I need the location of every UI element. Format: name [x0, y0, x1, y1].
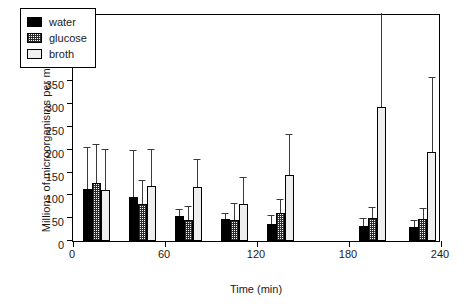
- legend-swatch-glucose-icon: [27, 33, 42, 43]
- x-axis-tick-label: 240: [431, 248, 449, 260]
- x-axis-title: Time (min): [72, 283, 440, 295]
- bar-glucose: [276, 213, 285, 241]
- error-bar-cap-broth: [102, 149, 109, 150]
- bar-chart-figure: Millions of microorganisms per millilite…: [0, 0, 463, 308]
- y-axis-tick: [67, 172, 73, 173]
- error-bar-water: [133, 151, 134, 197]
- x-axis-tick: [73, 241, 74, 247]
- error-bar-glucose: [372, 208, 373, 218]
- legend-item-broth: broth: [27, 46, 87, 62]
- bar-water: [83, 189, 92, 241]
- bar-water: [221, 219, 230, 241]
- error-bar-cap-broth: [194, 159, 201, 160]
- bar-broth: [285, 175, 294, 241]
- error-bar-cap-broth: [286, 134, 293, 135]
- error-bar-cap-glucose: [277, 199, 284, 200]
- error-bar-broth: [151, 150, 152, 186]
- bar-water: [359, 226, 368, 241]
- legend-swatch-broth-icon: [27, 49, 42, 59]
- error-bar-broth: [105, 150, 106, 190]
- error-bar-cap-glucose: [369, 207, 376, 208]
- legend-item-glucose: glucose: [27, 30, 87, 46]
- bar-broth: [147, 186, 156, 241]
- error-bar-broth: [197, 160, 198, 187]
- bar-broth: [101, 190, 110, 241]
- error-bar-glucose: [142, 181, 143, 204]
- bar-broth: [193, 187, 202, 241]
- error-bar-cap-broth: [148, 149, 155, 150]
- legend-swatch-water-icon: [27, 17, 42, 27]
- error-bar-glucose: [96, 145, 97, 182]
- error-bar-cap-water: [360, 218, 367, 219]
- error-bar-water: [179, 210, 180, 216]
- legend-label: broth: [49, 48, 74, 60]
- bar-water: [267, 224, 276, 241]
- error-bar-cap-glucose: [231, 203, 238, 204]
- y-axis-tick: [67, 194, 73, 195]
- bar-glucose: [418, 219, 427, 241]
- legend-item-water: water: [27, 14, 87, 30]
- y-axis-tick-label: 0: [58, 245, 64, 246]
- error-bar-broth: [289, 135, 290, 175]
- error-bar-glucose: [234, 204, 235, 220]
- bar-glucose: [184, 220, 193, 241]
- bar-water: [129, 197, 138, 241]
- y-axis-tick-label: 150: [46, 177, 64, 178]
- y-axis-tick: [67, 103, 73, 104]
- legend-label: glucose: [49, 32, 87, 44]
- error-bar-water: [414, 221, 415, 227]
- error-bar-broth: [432, 78, 433, 152]
- error-bar-cap-glucose: [93, 144, 100, 145]
- x-axis-tick-label: 0: [69, 248, 75, 260]
- error-bar-cap-glucose: [139, 180, 146, 181]
- y-axis-tick: [67, 126, 73, 127]
- x-axis-tick-label: 120: [247, 248, 265, 260]
- error-bar-cap-glucose: [185, 206, 192, 207]
- plot-inner: [73, 15, 439, 241]
- error-bar-water: [87, 148, 88, 189]
- y-axis-tick-label: 300: [46, 108, 64, 109]
- error-bar-broth: [243, 178, 244, 204]
- bar-broth: [427, 152, 436, 241]
- error-bar-glucose: [188, 207, 189, 219]
- error-bar-cap-broth: [240, 177, 247, 178]
- error-bar-water: [271, 216, 272, 223]
- error-bar-water: [225, 214, 226, 219]
- error-bar-cap-water: [130, 150, 137, 151]
- x-axis-tick: [441, 241, 442, 247]
- bar-water: [409, 227, 418, 241]
- y-axis-tick: [67, 217, 73, 218]
- error-bar-glucose: [423, 209, 424, 219]
- error-bar-broth: [381, 13, 382, 107]
- plot-area: 050100150200250300350400450500: [72, 14, 440, 242]
- x-axis-tick: [349, 241, 350, 247]
- bar-broth: [239, 204, 248, 241]
- error-bar-cap-water: [176, 209, 183, 210]
- bar-glucose: [92, 183, 101, 241]
- chart-legend: waterglucosebroth: [20, 8, 96, 68]
- y-axis-tick-label: 200: [46, 154, 64, 155]
- y-axis-tick-label: 350: [46, 85, 64, 86]
- error-bar-water: [363, 219, 364, 226]
- error-bar-cap-broth: [428, 77, 435, 78]
- error-bar-cap-water: [410, 220, 417, 221]
- bar-broth: [377, 107, 386, 241]
- x-axis-tick: [257, 241, 258, 247]
- y-axis-tick-label: 50: [52, 222, 64, 223]
- legend-label: water: [49, 16, 76, 28]
- bar-glucose: [368, 218, 377, 241]
- bar-water: [175, 216, 184, 241]
- error-bar-cap-water: [84, 147, 91, 148]
- y-axis-tick-label: 100: [46, 199, 64, 200]
- error-bar-glucose: [280, 200, 281, 213]
- y-axis-tick: [67, 149, 73, 150]
- error-bar-cap-water: [268, 215, 275, 216]
- x-axis-tick-label: 60: [158, 248, 170, 260]
- error-bar-cap-water: [222, 213, 229, 214]
- y-axis-tick: [67, 80, 73, 81]
- bar-glucose: [138, 204, 147, 241]
- x-axis-tick-label: 180: [339, 248, 357, 260]
- error-bar-cap-glucose: [419, 208, 426, 209]
- x-axis-tick: [165, 241, 166, 247]
- y-axis-tick-label: 250: [46, 131, 64, 132]
